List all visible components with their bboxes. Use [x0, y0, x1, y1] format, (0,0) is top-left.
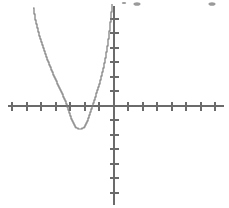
- scan-speck-1: [133, 2, 140, 6]
- parabola-curve-group: [33, 4, 112, 129]
- x-axis-group: [8, 102, 224, 111]
- parabola-curve: [33, 4, 112, 129]
- scan-speck-3: [122, 2, 126, 4]
- graph-figure: [0, 0, 229, 208]
- scan-artifact-specks: [122, 2, 216, 6]
- coordinate-plane-svg: [0, 0, 229, 208]
- scan-speck-2: [208, 2, 215, 6]
